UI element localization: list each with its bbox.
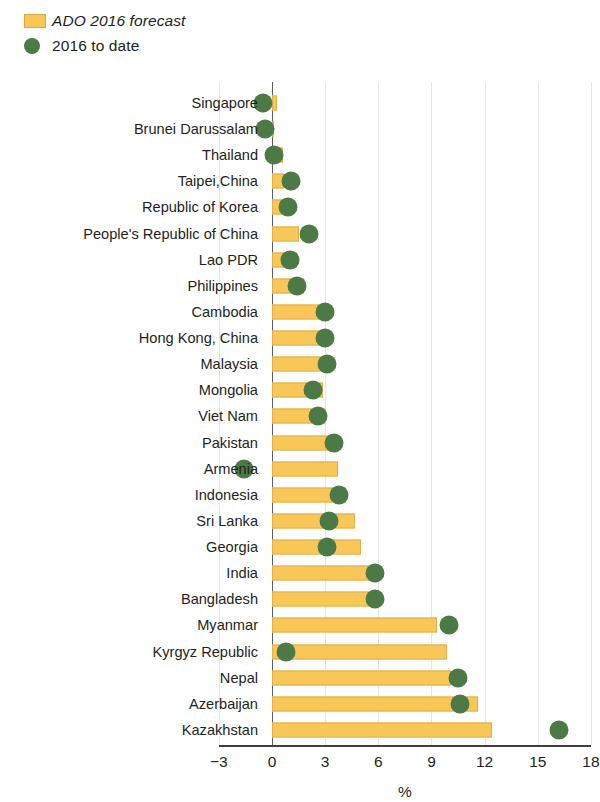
data-point-marker — [316, 329, 335, 348]
bar — [272, 566, 371, 581]
data-point-marker — [317, 355, 336, 374]
category-label: Lao PDR — [199, 252, 258, 267]
category-label: Hong Kong, China — [139, 331, 258, 346]
category-label: Viet Nam — [198, 409, 258, 424]
category-label: Brunei Darussalam — [134, 122, 258, 137]
data-point-marker — [264, 146, 283, 165]
bar — [272, 304, 322, 319]
bar — [272, 357, 323, 372]
data-point-marker — [300, 224, 319, 243]
category-label: Armenia — [204, 461, 258, 476]
bar — [272, 96, 277, 111]
x-axis-tick-label: −3 — [210, 753, 228, 771]
category-label: India — [226, 566, 258, 581]
bar — [272, 226, 299, 241]
category-label: Singapore — [191, 96, 258, 111]
bar — [272, 618, 437, 633]
data-point-marker — [287, 276, 306, 295]
category-label: Kyrgyz Republic — [153, 644, 258, 659]
x-axis-tick-label: 18 — [582, 753, 599, 771]
category-label: People's Republic of China — [83, 226, 258, 241]
data-point-marker — [440, 616, 459, 635]
x-axis-tick-label: 12 — [476, 753, 493, 771]
data-point-marker — [303, 381, 322, 400]
category-label: Nepal — [220, 670, 258, 685]
x-axis-tick-label: 9 — [427, 753, 436, 771]
data-point-marker — [450, 694, 469, 713]
bar — [272, 540, 361, 555]
gridline — [538, 82, 539, 745]
bar — [272, 461, 338, 476]
bar — [272, 592, 371, 607]
category-label: Philippines — [187, 279, 258, 294]
bar — [272, 696, 478, 711]
data-point-marker — [316, 302, 335, 321]
data-point-marker — [317, 538, 336, 557]
gridline — [485, 82, 486, 745]
x-axis-line — [219, 745, 591, 747]
data-point-marker — [365, 564, 384, 583]
data-point-marker — [282, 172, 301, 191]
data-point-marker — [365, 590, 384, 609]
category-label: Indonesia — [195, 488, 258, 503]
category-label: Cambodia — [191, 305, 258, 320]
category-label: Bangladesh — [181, 592, 258, 607]
x-axis-tick-label: 0 — [268, 753, 277, 771]
category-label: Myanmar — [197, 618, 258, 633]
data-point-marker — [325, 433, 344, 452]
x-axis-tick-label: 6 — [374, 753, 383, 771]
bar — [272, 722, 492, 737]
x-axis-tick-label: 3 — [321, 753, 330, 771]
bar — [272, 670, 451, 685]
x-axis-title: % — [398, 783, 412, 801]
category-label: Thailand — [202, 148, 258, 163]
category-label: Mongolia — [199, 383, 258, 398]
category-label: Republic of Korea — [142, 200, 258, 215]
x-axis-tick-label: 15 — [529, 753, 546, 771]
data-point-marker — [277, 642, 296, 661]
data-point-marker — [449, 668, 468, 687]
gridline — [591, 82, 592, 745]
category-label: Malaysia — [200, 357, 258, 372]
category-label: Kazakhstan — [182, 723, 258, 738]
data-point-marker — [319, 511, 338, 530]
data-point-marker — [280, 250, 299, 269]
bar — [272, 435, 329, 450]
bar — [272, 331, 322, 346]
data-point-marker — [255, 120, 274, 139]
bar — [272, 513, 355, 528]
bar — [272, 644, 447, 659]
data-point-marker — [330, 485, 349, 504]
category-label: Pakistan — [202, 435, 258, 450]
data-point-marker — [550, 720, 569, 739]
category-label: Georgia — [206, 540, 258, 555]
data-point-marker — [278, 198, 297, 217]
data-point-marker — [309, 407, 328, 426]
category-label: Azerbaijan — [189, 696, 258, 711]
category-label: Taipei,China — [178, 174, 258, 189]
category-label: Sri Lanka — [196, 514, 258, 529]
